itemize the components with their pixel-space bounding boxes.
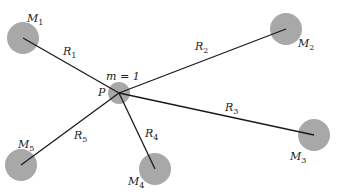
mass-label-m5: M5 <box>17 138 34 153</box>
distance-label-r1: R1 <box>62 45 76 60</box>
distance-label-r4: R4 <box>144 127 158 142</box>
distance-label-r3: R3 <box>224 101 238 116</box>
mass-label-m2: M2 <box>297 37 314 52</box>
force-diagram: m = 1 P M1R1M2R2M3R3M4R4M5R5 <box>0 0 339 194</box>
distance-label-r2: R2 <box>194 40 208 55</box>
point-p-label: P <box>97 86 106 99</box>
distance-line-r5 <box>21 93 119 165</box>
mass-label-m3: M3 <box>289 150 306 165</box>
distance-line-r2 <box>119 29 286 93</box>
distance-label-r5: R5 <box>73 129 87 144</box>
center-mass-label: m = 1 <box>106 70 140 83</box>
mass-label-m1: M1 <box>26 12 43 27</box>
